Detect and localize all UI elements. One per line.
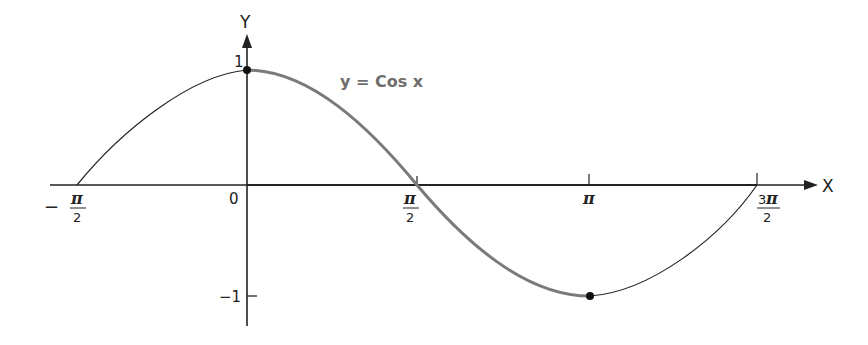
x-tick-three-pi-half: 3 π 2 <box>757 189 780 225</box>
y-axis-arrow-icon <box>242 34 252 48</box>
x-tick-origin: 0 <box>229 190 239 208</box>
curve-label: y = Cos x <box>340 72 424 91</box>
cosine-curve-right <box>590 185 757 296</box>
cosine-curve-left <box>77 70 247 185</box>
svg-text:2: 2 <box>406 210 414 225</box>
x-axis-arrow-icon <box>804 180 818 190</box>
svg-text:2: 2 <box>763 210 771 225</box>
y-tick-1: 1 <box>234 53 244 71</box>
svg-text:−: − <box>44 196 59 217</box>
min-point <box>586 292 594 300</box>
y-tick-neg1: −1 <box>219 288 241 306</box>
cosine-graph: X Y 1 −1 − π 2 0 π 2 π 3 π 2 y = Cos x <box>0 0 868 345</box>
svg-text:π: π <box>403 189 416 208</box>
max-point <box>243 66 251 74</box>
svg-text:π: π <box>765 189 778 208</box>
x-tick-pi-half: π 2 <box>403 189 419 225</box>
x-axis-label: X <box>822 176 834 196</box>
y-axis-label: Y <box>239 12 251 32</box>
cosine-curve-highlight <box>247 70 590 296</box>
svg-text:2: 2 <box>73 210 81 225</box>
x-tick-pi: π <box>582 189 595 208</box>
x-tick-neg-pi-half: − π 2 <box>44 189 86 225</box>
svg-text:π: π <box>70 189 83 208</box>
